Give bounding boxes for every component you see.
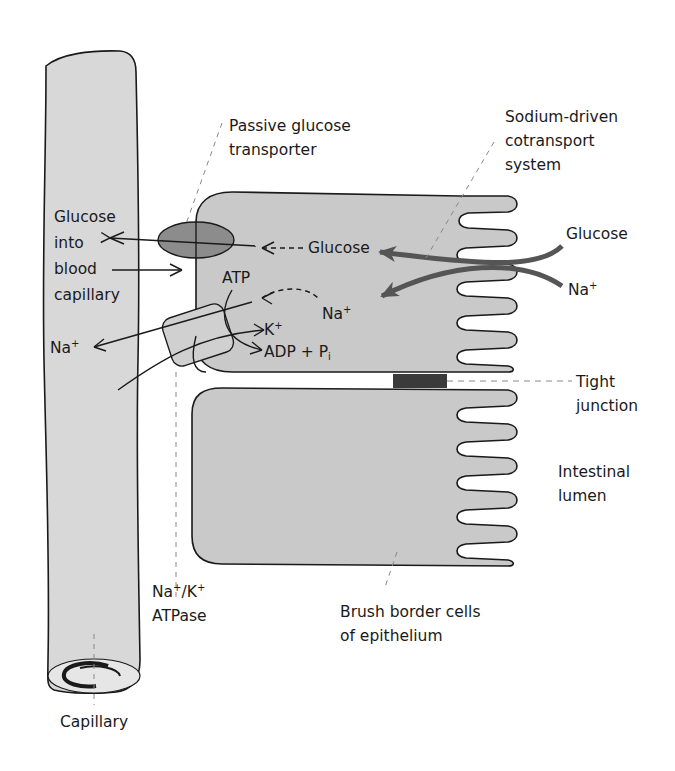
pi-subscript: i xyxy=(328,351,331,362)
label-intestinal-lumen: Intestinallumen xyxy=(558,460,630,508)
label-glucose-cytoplasm: Glucose xyxy=(308,236,370,260)
k-ion-charge: + xyxy=(274,320,282,331)
label-na-cytoplasm: Na+ xyxy=(322,302,351,326)
label-na-lumen: Na+ xyxy=(568,278,597,302)
na-blood-text: Na xyxy=(50,339,71,357)
atpase-line2: ATPase xyxy=(152,607,207,625)
label-passive-transporter: Passive glucosetransporter xyxy=(229,114,351,162)
atpase-k: /K xyxy=(181,583,196,601)
label-glucose-into-line4: capillary xyxy=(54,286,120,304)
tight-junction-line1: Tight xyxy=(576,373,615,391)
adp-text: ADP + P xyxy=(264,343,328,361)
label-brush-border-cells: Brush border cellsof epithelium xyxy=(340,600,481,648)
intestinal-lumen-line2: lumen xyxy=(558,487,607,505)
tight-junction-line2: junction xyxy=(576,397,638,415)
k-ion-text: K xyxy=(264,321,274,339)
label-k-ion: K+ xyxy=(264,318,283,342)
atpase-k-charge: + xyxy=(197,582,205,593)
label-atp: ATP xyxy=(222,266,250,290)
label-sodium-cotransport-line1: Sodium-driven xyxy=(505,108,618,126)
label-adp-pi: ADP + Pi xyxy=(264,340,331,364)
na-blood-charge: + xyxy=(71,338,79,349)
brush-border-line2: of epithelium xyxy=(340,627,443,645)
tight-junction xyxy=(393,374,447,388)
na-lumen-text: Na xyxy=(568,281,589,299)
na-lumen-charge: + xyxy=(589,280,597,291)
label-na-k-atpase: Na+/K+ATPase xyxy=(152,580,207,628)
label-glucose-into-line3: blood xyxy=(54,260,97,278)
label-sodium-cotransport-line3: system xyxy=(505,156,561,174)
label-sodium-cotransport-line2: cotransport xyxy=(505,132,595,150)
label-glucose-into-capillary: Glucoseintobloodcapillary xyxy=(54,204,120,308)
capillary-tube xyxy=(43,51,140,693)
label-passive-transporter-line1: Passive glucose xyxy=(229,117,351,135)
na-inside-charge: + xyxy=(343,304,351,315)
label-tight-junction: Tightjunction xyxy=(576,370,638,418)
label-glucose-into-line2: into xyxy=(54,234,84,252)
label-na-blood: Na+ xyxy=(50,336,79,360)
label-glucose-into-line1: Glucose xyxy=(54,208,116,226)
label-capillary: Capillary xyxy=(60,710,128,734)
label-sodium-cotransport: Sodium-drivencotransportsystem xyxy=(505,105,618,177)
brush-border-line1: Brush border cells xyxy=(340,603,481,621)
label-passive-transporter-line2: transporter xyxy=(229,141,317,159)
lower-epithelial-cell xyxy=(192,388,517,566)
intestinal-lumen-line1: Intestinal xyxy=(558,463,630,481)
na-inside-text: Na xyxy=(322,305,343,323)
label-glucose-lumen: Glucose xyxy=(566,222,628,246)
atpase-na: Na xyxy=(152,583,173,601)
